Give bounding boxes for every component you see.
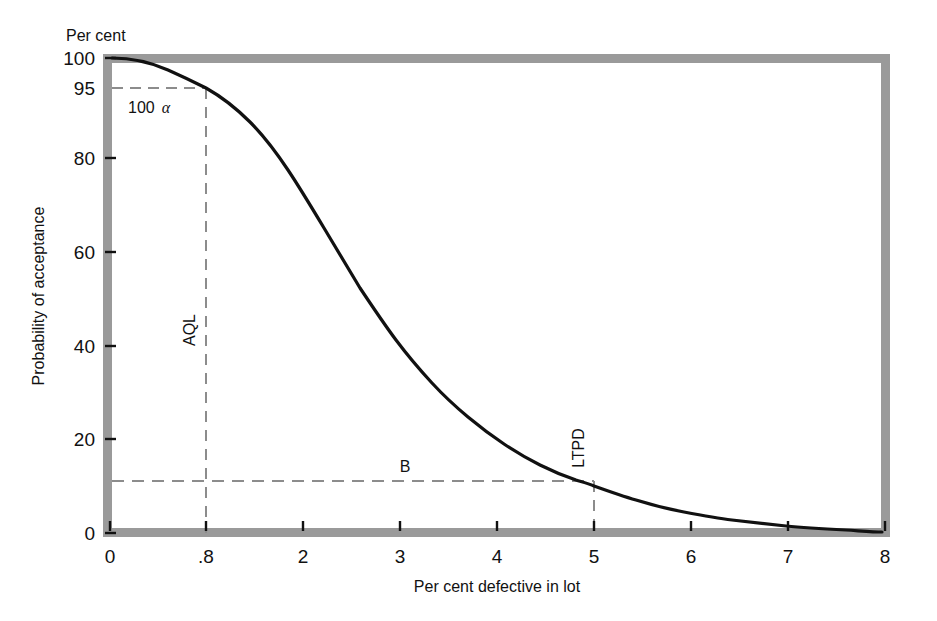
aql-annotation-label: AQL — [181, 314, 198, 346]
plot-right-border — [881, 54, 890, 537]
y-axis-spine — [103, 54, 112, 537]
operating-characteristic-chart: 0 .8 2 3 4 5 6 7 8 0 20 40 60 80 95 100 … — [0, 0, 937, 621]
y-tick-label-80: 80 — [74, 148, 95, 169]
beta-annotation-label: B — [400, 458, 411, 475]
alpha-annotation-number: 100 — [128, 99, 155, 116]
y-tick-label-0: 0 — [84, 523, 95, 544]
x-tick-label-5: 5 — [589, 546, 600, 567]
x-axis-title: Per cent defective in lot — [414, 578, 581, 595]
x-tick-label-3: 3 — [395, 546, 406, 567]
x-tick-label-0-8: .8 — [198, 546, 214, 567]
y-tick-label-100: 100 — [63, 48, 95, 69]
x-tick-label-6: 6 — [686, 546, 697, 567]
plot-top-border — [103, 54, 890, 63]
alpha-glyph: α — [162, 99, 171, 116]
x-tick-label-4: 4 — [492, 546, 503, 567]
x-tick-label-2: 2 — [298, 546, 309, 567]
y-tick-label-40: 40 — [74, 336, 95, 357]
x-tick-label-0: 0 — [105, 546, 116, 567]
y-tick-label-60: 60 — [74, 242, 95, 263]
y-axis-unit-label: Per cent — [66, 27, 126, 44]
x-tick-label-8: 8 — [880, 546, 891, 567]
alpha-annotation-label: 100α — [128, 99, 171, 116]
y-tick-label-20: 20 — [74, 429, 95, 450]
y-axis-title: Probability of acceptance — [30, 207, 47, 386]
ltpd-annotation-label: LTPD — [570, 428, 587, 468]
chart-figure: 0 .8 2 3 4 5 6 7 8 0 20 40 60 80 95 100 … — [0, 0, 937, 621]
y-tick-label-95: 95 — [74, 78, 95, 99]
x-tick-label-7: 7 — [783, 546, 794, 567]
